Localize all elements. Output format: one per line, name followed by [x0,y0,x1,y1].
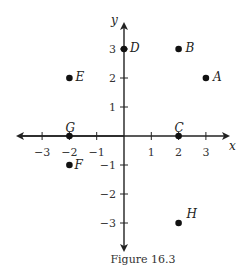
point-b [175,46,182,53]
y-tick-label: −3 [100,217,116,230]
point-label: C [175,121,184,135]
point-label: A [212,70,222,84]
y-tick-label: 2 [109,72,116,85]
point-label: G [65,121,75,135]
y-tick-label: −1 [100,159,116,172]
points: ABCDEFGH [65,41,222,226]
point-label: H [186,207,198,221]
point-h [175,220,182,227]
coordinate-plane: −3−2−1123 321−1−2−3 ABCDEFGH x y Figure … [0,0,249,277]
y-tick-label: 3 [109,43,116,56]
point-d [121,46,128,53]
point-e [66,75,73,82]
y-tick-label: −2 [100,188,116,201]
y-tick-label: 1 [109,101,116,114]
x-tick-label: −3 [34,146,50,159]
x-tick-label: 1 [148,146,155,159]
x-tick-label: 3 [202,146,209,159]
x-tick-label: −1 [89,146,105,159]
point-f [66,162,73,169]
point-label: E [74,70,84,84]
figure-caption: Figure 16.3 [110,253,175,266]
point-label: F [73,158,83,172]
x-axis-label: x [229,139,236,153]
point-a [203,75,210,82]
y-axis-label: y [110,13,118,27]
point-label: B [185,41,195,55]
point-label: D [129,41,140,55]
x-tick-label: 2 [175,146,182,159]
